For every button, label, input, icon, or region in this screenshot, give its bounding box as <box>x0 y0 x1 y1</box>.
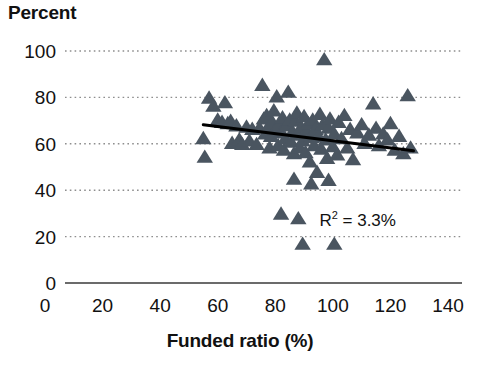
data-point <box>316 52 332 65</box>
scatter-chart: Percent 020406080100 020406080100120140 … <box>0 0 480 368</box>
x-tick-label-60: 60 <box>207 295 228 316</box>
data-point <box>326 236 342 249</box>
plot-area: 020406080100 020406080100120140 <box>0 0 480 368</box>
data-point <box>290 211 306 224</box>
x-axis-title: Funded ratio (%) <box>0 330 480 352</box>
data-point <box>195 131 211 144</box>
r-squared-annotation: R2 = 3.3% <box>319 209 396 231</box>
y-axis-ticks: 020406080100 <box>24 41 56 294</box>
x-tick-label-100: 100 <box>317 295 349 316</box>
data-point <box>254 77 270 90</box>
y-tick-label-80: 80 <box>35 87 56 108</box>
y-tick-label-40: 40 <box>35 180 56 201</box>
data-point <box>303 176 319 189</box>
data-point <box>312 106 328 119</box>
data-point <box>400 88 416 101</box>
data-point <box>273 206 289 219</box>
x-tick-label-40: 40 <box>150 295 171 316</box>
data-point <box>353 117 369 130</box>
y-tick-label-100: 100 <box>24 41 56 62</box>
data-point <box>336 108 352 121</box>
r-squared-prefix: R <box>319 211 331 230</box>
x-tick-label-80: 80 <box>265 295 286 316</box>
y-tick-label-60: 60 <box>35 134 56 155</box>
data-point <box>286 171 302 184</box>
data-point <box>294 236 310 249</box>
data-point <box>266 103 282 116</box>
data-point <box>197 149 213 162</box>
x-tick-label-120: 120 <box>375 295 407 316</box>
data-point <box>382 116 398 129</box>
x-tick-label-0: 0 <box>40 295 51 316</box>
data-point <box>345 152 361 165</box>
y-tick-label-0: 0 <box>45 273 56 294</box>
x-axis-ticks: 020406080100120140 <box>40 295 464 316</box>
x-tick-label-20: 20 <box>92 295 113 316</box>
data-point <box>391 129 407 142</box>
y-tick-label-20: 20 <box>35 227 56 248</box>
r-squared-value: = 3.3% <box>338 211 396 230</box>
x-tick-label-140: 140 <box>432 295 464 316</box>
data-point <box>280 84 296 97</box>
gridlines <box>65 51 462 237</box>
